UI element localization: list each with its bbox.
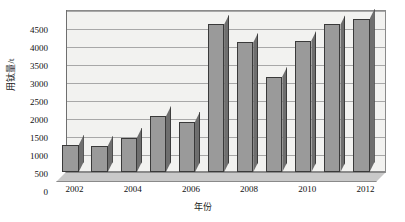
x-tick-label: 2006 [182, 184, 200, 194]
bar-front-face [353, 19, 369, 172]
x-tick-label: 2008 [240, 184, 258, 194]
y-tick-label: 4000 [14, 44, 48, 53]
x-tick-label: 2004 [124, 184, 142, 194]
bar-side-face [311, 31, 316, 172]
bar [266, 67, 282, 172]
bar-front-face [295, 41, 311, 172]
x-tick-label: 2012 [356, 184, 374, 194]
bar [295, 31, 311, 172]
bar-front-face [121, 138, 137, 172]
bar-front-face [150, 116, 166, 172]
bar-front-face [62, 145, 78, 172]
y-tick-label: 3000 [14, 80, 48, 89]
bar-front-face [266, 77, 282, 172]
y-tick-label: 1000 [14, 152, 48, 161]
bar-front-face [324, 24, 340, 172]
bar-front-face [179, 122, 195, 172]
bar-side-face [195, 112, 200, 172]
bar-side-face [253, 32, 258, 172]
plot-area [56, 10, 386, 182]
y-tick-label: 0 [14, 188, 48, 197]
bar-side-face [137, 128, 142, 172]
bar-front-face [208, 24, 224, 172]
bar-side-face [282, 67, 287, 172]
bar [91, 136, 107, 172]
x-tick-label: 2002 [66, 184, 84, 194]
bar [150, 106, 166, 172]
bar [324, 14, 340, 172]
x-axis-title: 年份 [0, 200, 405, 213]
y-tick-label: 2000 [14, 116, 48, 125]
bar-chart: 用钛量/t 0500100015002000250030003500400045… [0, 0, 405, 222]
bar [208, 14, 224, 172]
bar-side-face [108, 136, 113, 172]
bar-side-face [224, 14, 229, 172]
y-tick-label: 4500 [14, 26, 48, 35]
bar [121, 128, 137, 172]
bar-front-face [237, 42, 253, 172]
y-tick-label: 500 [14, 170, 48, 179]
bar-side-face [166, 106, 171, 172]
x-axis-tick-labels: 200220042006200820102012 [56, 184, 386, 198]
bar [179, 112, 195, 172]
y-tick-label: 2500 [14, 98, 48, 107]
bar-side-face [79, 135, 84, 172]
x-tick-label: 2010 [298, 184, 316, 194]
bar [62, 135, 78, 172]
y-tick-label: 3500 [14, 62, 48, 71]
bar-side-face [340, 14, 345, 172]
bar [237, 32, 253, 172]
bar-series [56, 10, 386, 182]
bar-front-face [91, 146, 107, 172]
bar-side-face [370, 9, 375, 172]
bar [353, 9, 369, 172]
y-tick-label: 1500 [14, 134, 48, 143]
y-axis-tick-labels: 050010001500200025003000350040004500 [14, 10, 48, 182]
